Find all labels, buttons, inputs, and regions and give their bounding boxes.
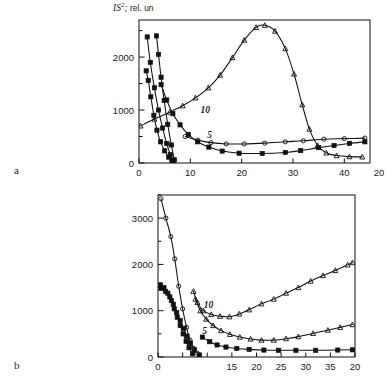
curve-label: 10 <box>201 105 211 115</box>
data-point-marker <box>163 149 167 153</box>
series-line <box>141 25 363 157</box>
figure-container: IS2; rel. un a b 01020304020010002000105… <box>0 0 386 388</box>
data-point-marker <box>144 69 148 73</box>
y-axis-tick-label: 2000 <box>132 259 153 270</box>
series-curve-10-rising <box>191 260 355 319</box>
data-point-marker <box>156 52 160 56</box>
data-point-marker <box>165 98 169 102</box>
x-axis-end-label: 20 <box>374 167 385 178</box>
y-axis-tick-label: 1000 <box>132 305 153 316</box>
series-line <box>185 137 365 145</box>
data-point-marker <box>172 158 176 162</box>
data-point-marker <box>224 345 228 349</box>
data-point-marker <box>154 34 158 38</box>
x-axis-tick-label: 30 <box>288 167 299 178</box>
data-point-marker <box>152 86 156 90</box>
x-axis-tick-label: 20 <box>251 361 262 372</box>
data-point-marker <box>294 348 298 352</box>
x-axis-tick-label: 0 <box>155 361 160 372</box>
data-point-marker <box>188 341 192 345</box>
y-axis-tick-label: 0 <box>129 158 134 169</box>
series-steep-decay-top <box>159 197 200 356</box>
curve-label: 5 <box>207 130 212 140</box>
series-curve-flat-bottom <box>200 335 354 352</box>
data-point-marker <box>159 83 163 87</box>
data-point-marker <box>314 348 318 352</box>
data-point-marker <box>185 334 189 338</box>
data-point-marker <box>159 286 163 290</box>
series-line <box>195 299 352 340</box>
x-axis-tick-label: 0 <box>136 167 141 178</box>
y-axis-tick-label: 0 <box>148 352 153 363</box>
data-point-marker <box>208 340 212 344</box>
data-point-marker <box>184 339 188 343</box>
data-point-marker <box>159 75 163 79</box>
data-point-marker <box>192 347 196 351</box>
data-point-marker <box>161 126 165 130</box>
data-point-marker <box>235 346 239 350</box>
data-point-marker <box>190 352 194 356</box>
data-point-marker <box>182 326 186 330</box>
series-group <box>138 23 367 163</box>
data-point-marker <box>347 141 351 145</box>
data-point-marker <box>149 95 153 99</box>
data-point-marker <box>277 348 281 352</box>
data-point-marker <box>155 128 159 132</box>
x-axis-tick-label: 35 <box>325 361 336 372</box>
data-point-marker <box>262 348 266 352</box>
data-point-marker <box>336 348 340 352</box>
data-point-marker <box>156 108 160 112</box>
series-group <box>158 197 355 357</box>
data-point-marker <box>181 332 185 336</box>
data-point-marker <box>146 78 150 82</box>
data-point-marker <box>168 295 172 299</box>
curve-label: 10 <box>204 300 214 310</box>
y-axis-tick-label: 2000 <box>113 52 134 63</box>
y-axis-tick-label: 1000 <box>113 105 134 116</box>
plot-panel-a: 01020304020010002000105 <box>0 0 386 190</box>
data-point-marker <box>166 122 170 126</box>
x-axis-tick-label: 30 <box>300 361 311 372</box>
data-point-marker <box>207 145 211 149</box>
data-point-marker <box>178 318 182 322</box>
x-axis-tick-label: 25 <box>276 361 287 372</box>
data-point-marker <box>148 60 152 64</box>
x-axis-tick-label: 20 <box>236 167 247 178</box>
data-point-marker <box>237 151 241 155</box>
data-point-marker <box>165 141 169 145</box>
data-point-marker <box>187 346 191 350</box>
data-point-marker <box>175 310 179 314</box>
data-point-marker <box>215 343 219 347</box>
plot-panel-b: 01520253035200100020003000105 <box>0 188 386 388</box>
series-line <box>193 263 352 317</box>
data-point-marker <box>299 148 303 152</box>
data-point-marker <box>283 150 287 154</box>
curve-label: 5 <box>202 326 207 336</box>
data-point-marker <box>220 149 224 153</box>
data-point-marker <box>171 302 175 306</box>
data-point-marker <box>178 123 182 127</box>
data-point-marker <box>260 151 264 155</box>
plot-frame <box>139 20 370 163</box>
data-point-marker <box>168 152 172 156</box>
data-point-marker <box>158 140 162 144</box>
x-axis-tick-label: 20 <box>350 361 361 372</box>
x-axis-tick-label: 40 <box>339 167 350 178</box>
data-point-marker <box>350 348 354 352</box>
data-point-marker <box>163 289 167 293</box>
data-point-marker <box>332 143 336 147</box>
data-point-marker <box>169 143 173 147</box>
x-axis-tick-label: 15 <box>227 361 238 372</box>
x-axis-tick-label: 10 <box>185 167 196 178</box>
series-line <box>161 199 197 354</box>
data-point-marker <box>145 35 149 39</box>
series-curve-5-mid <box>193 297 355 343</box>
data-point-marker <box>197 353 201 357</box>
data-point-marker <box>247 347 251 351</box>
y-axis-tick-label: 3000 <box>132 213 153 224</box>
